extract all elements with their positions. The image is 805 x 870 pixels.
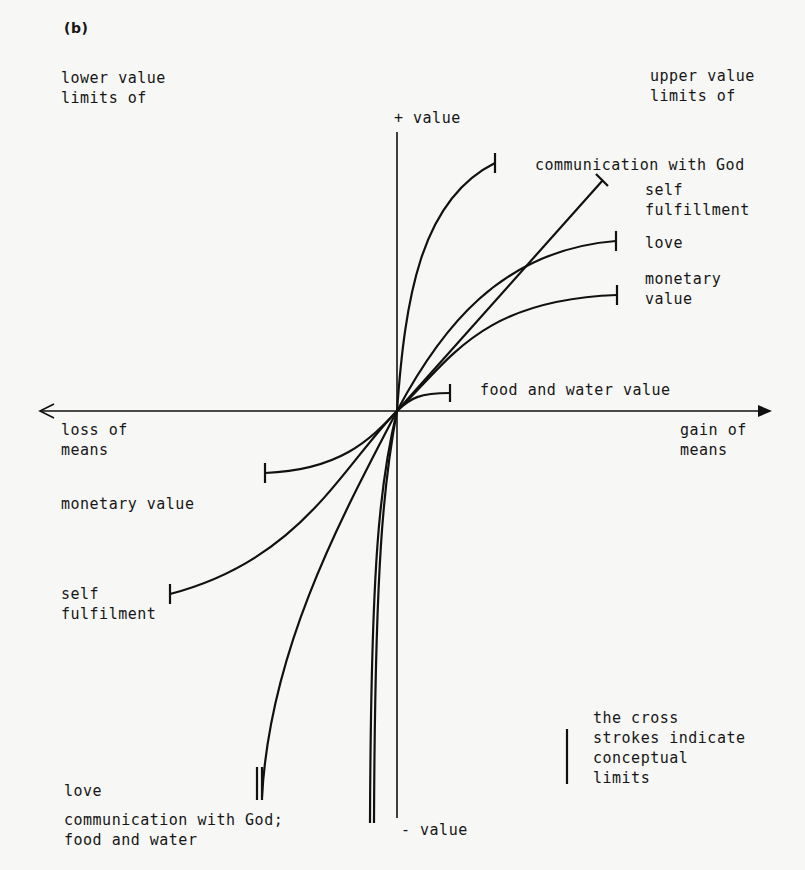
panel-label: (b) xyxy=(64,18,88,38)
curve-communication-with-god-upper xyxy=(397,163,495,411)
x-axis-negative-label: loss of means xyxy=(61,420,128,460)
upper-label-monetary-value: monetary value xyxy=(645,269,721,309)
x-axis-positive-label: gain of means xyxy=(680,420,747,460)
upper-label-communication-with-god: communication with God xyxy=(535,155,745,175)
upper-limits-heading: upper value limits of xyxy=(650,66,755,106)
lower-label-self-fulfilment: self fulfilment xyxy=(61,584,156,624)
curve-love-lower xyxy=(262,411,397,797)
y-axis-positive-label: + value xyxy=(394,108,461,128)
lower-limits-heading: lower value limits of xyxy=(61,68,166,108)
y-axis-negative-label: - value xyxy=(401,820,468,840)
curve-monetary-value-lower xyxy=(265,411,397,473)
upper-label-self-fulfillment: self fulfillment xyxy=(645,180,750,220)
curve-self-fulfilment-lower xyxy=(170,411,397,594)
lower-label-love: love xyxy=(64,781,102,801)
upper-label-food-and-water: food and water value xyxy=(480,380,671,400)
upper-label-love: love xyxy=(645,233,683,253)
curve-self-fulfillment-upper xyxy=(397,180,603,411)
lower-label-communication-food-water: communication with God; food and water xyxy=(64,810,283,850)
legend-text: the cross strokes indicate conceptual li… xyxy=(593,708,746,788)
lower-label-monetary-value: monetary value xyxy=(61,494,194,514)
x-axis-right-arrow-icon xyxy=(758,405,772,417)
